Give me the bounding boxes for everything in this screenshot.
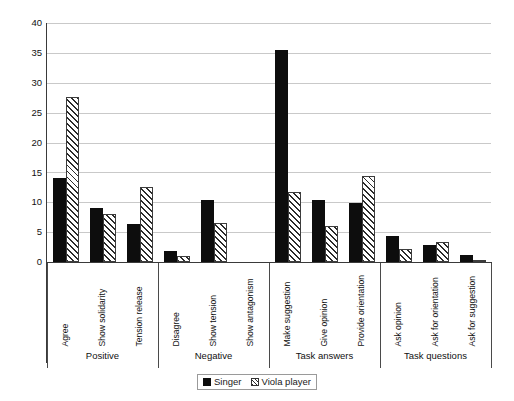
bar-singer	[423, 245, 436, 262]
category-label-text: Show tension	[209, 295, 218, 347]
bar-singer	[386, 236, 399, 262]
group-separator-right-edge	[491, 263, 492, 368]
group-label: Negative	[158, 349, 269, 369]
group-label: Task answers	[269, 349, 380, 369]
legend-swatch-singer-icon	[203, 378, 211, 386]
category-label-text: Ask opinion	[394, 303, 403, 347]
bar-group	[343, 23, 380, 262]
bar-group	[84, 23, 121, 262]
bar-group	[121, 23, 158, 262]
bar-singer	[275, 50, 288, 262]
bar-singer	[460, 255, 473, 262]
bar-groups	[47, 23, 491, 262]
bar-group	[232, 23, 269, 262]
bar-group	[306, 23, 343, 262]
y-axis-labels: 40 35 30 25 20 15 10 5 0	[0, 0, 42, 401]
y-tick-10: 10	[31, 197, 42, 207]
y-tick-15: 15	[31, 168, 42, 178]
category-label-text: Make suggestion	[283, 282, 292, 347]
category-label-text: Agree	[61, 324, 70, 347]
y-tick-30: 30	[31, 78, 42, 88]
bar-viola-player	[214, 223, 227, 262]
bar-chart: 40 35 30 25 20 15 10 5 0 AgreeShow solid…	[0, 0, 514, 401]
group-label: Task questions	[380, 349, 491, 369]
bar-singer	[349, 203, 362, 262]
y-tick-25: 25	[31, 108, 42, 118]
legend-item-singer[interactable]: Singer	[203, 376, 241, 387]
y-tick-40: 40	[31, 18, 42, 28]
bar-viola-player	[288, 192, 301, 262]
category-label: Ask opinion	[380, 263, 417, 349]
bar-viola-player	[66, 97, 79, 263]
bar-singer	[201, 200, 214, 262]
bar-viola-player	[103, 214, 116, 262]
bar-group	[380, 23, 417, 262]
bar-viola-player	[362, 176, 375, 262]
bar-singer	[90, 208, 103, 262]
category-label: Show solidarity	[84, 263, 121, 349]
bar-viola-player	[399, 249, 412, 262]
category-label: Ask for orientation	[417, 263, 454, 349]
category-label-text: Ask for orientation	[431, 278, 440, 347]
bar-viola-player	[177, 256, 190, 262]
y-tick-0: 0	[37, 257, 42, 267]
category-label: Tension release	[121, 263, 158, 349]
category-label: Make suggestion	[269, 263, 306, 349]
category-label: Show tension	[195, 263, 232, 349]
legend: Singer Viola player	[0, 374, 514, 390]
bar-group	[269, 23, 306, 262]
category-label: Disagree	[158, 263, 195, 349]
category-label-text: Tension release	[135, 287, 144, 347]
bar-group	[47, 23, 84, 262]
y-tick-5: 5	[37, 227, 42, 237]
legend-box: Singer Viola player	[197, 374, 317, 390]
category-label-text: Provide orientation	[357, 275, 366, 347]
bar-group	[417, 23, 454, 262]
bar-singer	[312, 200, 325, 262]
bar-singer	[53, 178, 66, 262]
category-label-text: Give opinion	[320, 299, 329, 347]
bar-group	[454, 23, 491, 262]
group-label: Positive	[47, 349, 158, 369]
bar-viola-player	[325, 226, 338, 262]
category-label: Agree	[47, 263, 84, 349]
bar-viola-player	[436, 242, 449, 262]
legend-item-viola-player[interactable]: Viola player	[251, 376, 311, 387]
category-label-text: Show solidarity	[98, 289, 107, 347]
bar-group	[195, 23, 232, 262]
category-label-text: Ask for suggestion	[468, 276, 477, 347]
y-tick-35: 35	[31, 48, 42, 58]
category-label: Provide orientation	[343, 263, 380, 349]
category-label-text: Show antagonism	[246, 279, 255, 347]
group-labels: PositiveNegativeTask answersTask questio…	[47, 349, 491, 369]
y-tick-20: 20	[31, 138, 42, 148]
legend-label-viola-player: Viola player	[262, 376, 311, 387]
bar-group	[158, 23, 195, 262]
bar-singer	[127, 224, 140, 262]
bar-viola-player	[140, 187, 153, 262]
legend-swatch-viola-player-icon	[251, 378, 259, 386]
category-label-text: Disagree	[172, 313, 181, 347]
bar-singer	[164, 251, 177, 262]
category-label: Ask for suggestion	[454, 263, 491, 349]
category-label: Show antagonism	[232, 263, 269, 349]
bar-viola-player	[473, 260, 486, 262]
category-label: Give opinion	[306, 263, 343, 349]
legend-label-singer: Singer	[214, 376, 241, 387]
